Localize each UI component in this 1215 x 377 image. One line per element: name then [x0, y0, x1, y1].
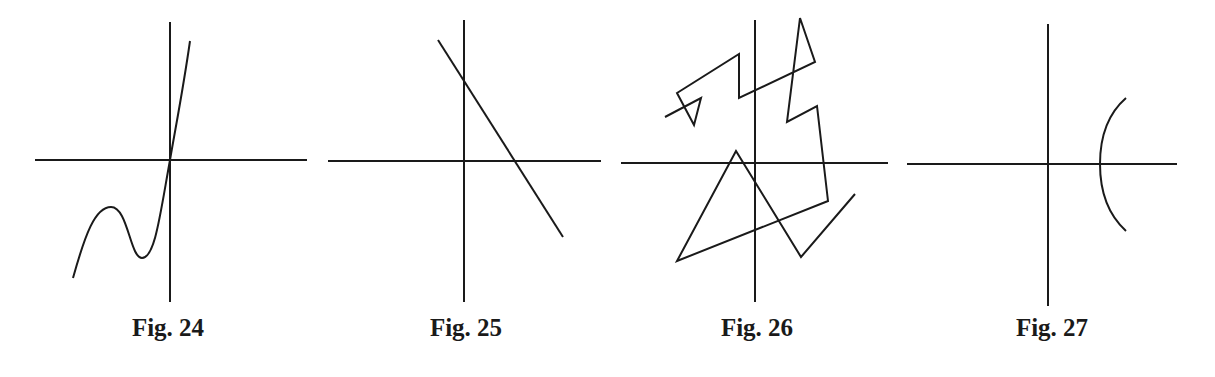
fig26-zigzag — [665, 18, 855, 261]
fig24-caption: Fig. 24 — [132, 314, 204, 342]
figure-26 — [621, 18, 888, 302]
fig27-caption: Fig. 27 — [1016, 314, 1088, 342]
figure-27 — [907, 24, 1177, 306]
fig25-caption: Fig. 25 — [430, 314, 502, 342]
fig25-line — [438, 40, 563, 237]
figure-24 — [35, 22, 307, 302]
figure-25 — [328, 20, 601, 302]
fig26-caption: Fig. 26 — [721, 314, 793, 342]
